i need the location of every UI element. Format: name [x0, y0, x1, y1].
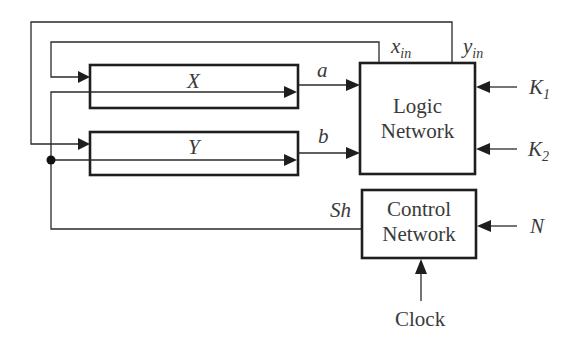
- signal-n-label: N: [530, 216, 544, 237]
- signal-k2-label: K2: [528, 139, 549, 160]
- control-network-label: Control Network: [362, 197, 476, 247]
- x-input-arrowhead: [78, 71, 90, 83]
- b-arrowhead: [346, 147, 360, 159]
- logic-network-line1: Logic: [360, 94, 475, 119]
- signal-y-in-label: yin: [463, 36, 483, 57]
- x-in-base: x: [391, 34, 400, 58]
- clock-arrowhead: [415, 259, 427, 274]
- a-arrowhead: [346, 79, 360, 91]
- n-arrowhead: [477, 220, 491, 232]
- k1-base: K: [529, 75, 543, 99]
- k1-arrowhead: [476, 81, 490, 93]
- x-in-subscript: in: [400, 46, 411, 61]
- clock-label: Clock: [395, 309, 445, 330]
- logic-network-line2: Network: [360, 119, 475, 144]
- logic-network-label: Logic Network: [360, 94, 475, 144]
- y-in-base: y: [463, 34, 472, 58]
- k2-subscript: 2: [542, 149, 549, 164]
- y-input-arrowhead: [78, 138, 90, 150]
- k2-base: K: [528, 137, 542, 161]
- control-network-line2: Network: [362, 222, 476, 247]
- signal-x-in-label: xin: [391, 36, 411, 57]
- signal-k1-label: K1: [529, 77, 550, 98]
- k2-arrowhead: [476, 143, 490, 155]
- y-in-subscript: in: [472, 46, 483, 61]
- y-register-label: Y: [188, 137, 200, 158]
- x-register-label: X: [187, 71, 200, 92]
- signal-sh-label: Sh: [330, 200, 351, 221]
- block-diagram: [0, 0, 586, 344]
- signal-b-label: b: [318, 126, 329, 147]
- control-network-line1: Control: [362, 197, 476, 222]
- k1-subscript: 1: [543, 87, 550, 102]
- junction-dot: [47, 156, 56, 165]
- signal-a-label: a: [317, 60, 328, 81]
